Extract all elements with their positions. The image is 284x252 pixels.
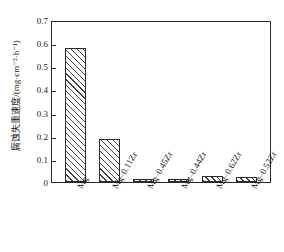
x-label-slot: Mg–0.44Zr <box>161 184 196 252</box>
x-label-slot: Mg–0.52Zr <box>230 184 265 252</box>
y-axis-tick-mark <box>52 68 56 69</box>
x-axis-tick-labels: MgMg–0.11ZrMg–0.45ZrMg–0.44ZrMg–0.62ZrMg… <box>51 184 271 252</box>
y-axis-title: 腐蚀失重速度/(mg·cm⁻²·h⁻¹) <box>12 40 21 150</box>
y-axis-tick-mark <box>52 45 56 46</box>
bar-slot <box>92 22 126 182</box>
y-axis-tick-mark <box>52 91 56 92</box>
y-axis-tick-label: 0.2 <box>37 132 48 141</box>
y-axis-tick-label: 0.1 <box>37 155 48 164</box>
y-axis-tick-label: 0.7 <box>37 17 48 26</box>
y-axis-tick-mark <box>52 161 56 162</box>
y-axis-tick-mark <box>52 115 56 116</box>
y-axis-tick-label: 0 <box>44 179 49 188</box>
y-axis-tick-mark <box>52 138 56 139</box>
y-axis-tick-label: 0.3 <box>37 109 48 118</box>
y-axis-tick-label: 0.4 <box>37 86 48 95</box>
x-label-slot: Mg–0.62Zr <box>196 184 231 252</box>
y-axis-title-container: 腐蚀失重速度/(mg·cm⁻²·h⁻¹) <box>4 0 28 190</box>
bar-slot <box>58 22 92 182</box>
x-label-slot: Mg–0.45Zr <box>126 184 161 252</box>
y-axis-tick-label: 0.6 <box>37 40 48 49</box>
bar <box>65 48 86 182</box>
y-axis-tick-labels: 00.10.20.30.40.50.60.7 <box>26 21 48 183</box>
chart-figure: 腐蚀失重速度/(mg·cm⁻²·h⁻¹) 00.10.20.30.40.50.6… <box>0 0 284 252</box>
y-axis-tick-label: 0.5 <box>37 63 48 72</box>
x-label-slot: Mg <box>57 184 92 252</box>
x-label-slot: Mg–0.11Zr <box>92 184 127 252</box>
